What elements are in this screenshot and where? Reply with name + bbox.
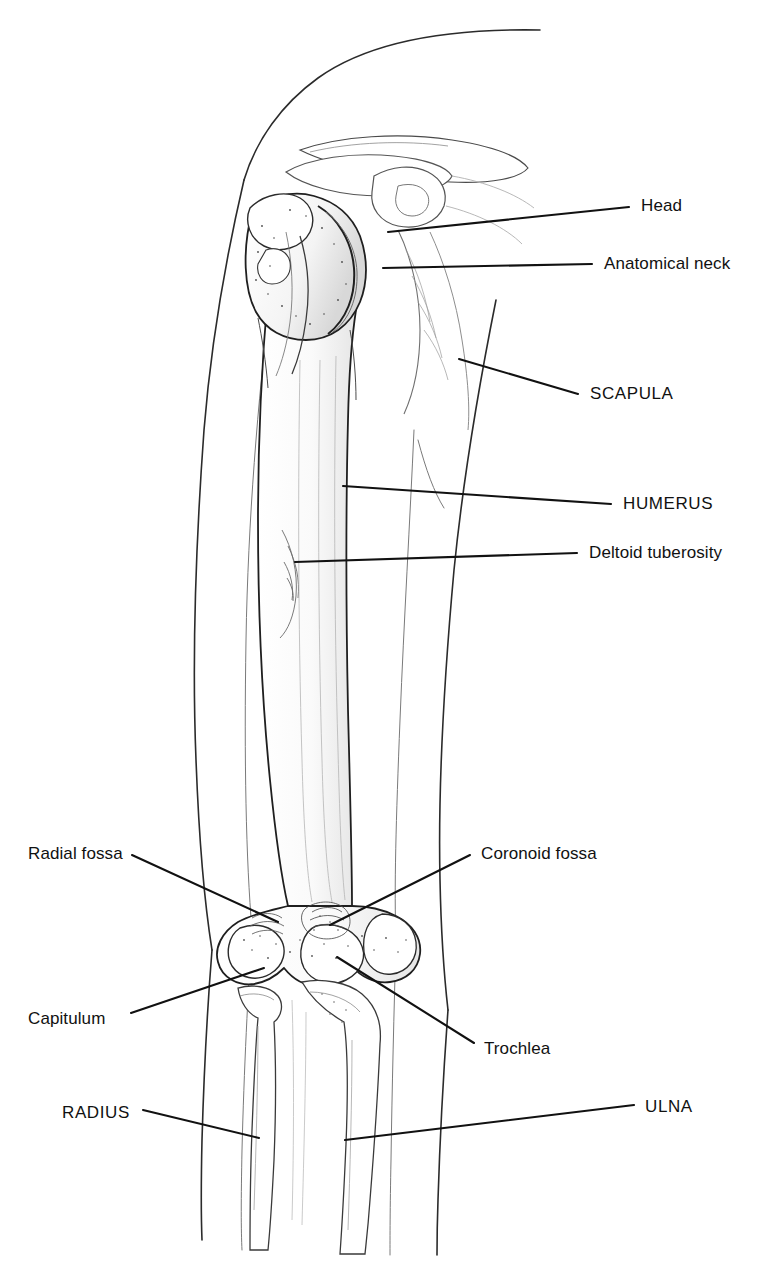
label-trochlea: Trochlea <box>484 1040 550 1057</box>
label-humerus: HUMERUS <box>623 495 713 512</box>
scapula-blade <box>446 176 534 244</box>
label-deltoid-tuberosity: Deltoid tuberosity <box>589 544 722 561</box>
leader-line-radial-fossa <box>132 855 278 922</box>
label-head: Head <box>641 197 682 214</box>
label-coronoid-fossa: Coronoid fossa <box>481 845 597 862</box>
interosseous-lines <box>292 1000 306 1225</box>
anatomy-illustration <box>0 0 759 1267</box>
radius-bone <box>238 986 281 1250</box>
label-radius: RADIUS <box>62 1104 130 1121</box>
leader-line-scapula <box>459 359 578 394</box>
leader-line-anatomical-neck <box>383 264 592 268</box>
medial-epicondyle <box>364 914 417 974</box>
humerus-shaft <box>258 292 356 906</box>
greater-tubercle <box>248 194 313 250</box>
label-scapula: SCAPULA <box>590 385 674 402</box>
label-anatomical-neck: Anatomical neck <box>604 255 730 272</box>
anatomy-figure: Head Anatomical neck SCAPULA HUMERUS Del… <box>0 0 759 1267</box>
ulna-bone <box>302 981 380 1255</box>
label-ulna: ULNA <box>645 1098 693 1115</box>
label-radial-fossa: Radial fossa <box>28 845 123 862</box>
leader-line-ulna <box>345 1105 634 1140</box>
label-capitulum: Capitulum <box>28 1010 105 1027</box>
leader-lines <box>131 207 634 1140</box>
leader-line-humerus <box>343 486 611 504</box>
leader-line-radius <box>143 1110 259 1138</box>
